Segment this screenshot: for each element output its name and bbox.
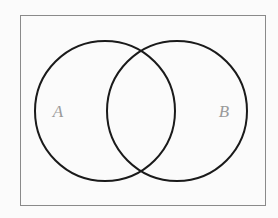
venn-diagram-figure: A B	[0, 0, 278, 218]
venn-diagram-canvas: A B	[0, 0, 278, 218]
figure-background	[0, 0, 278, 218]
set-label-a: A	[52, 102, 64, 121]
set-label-b: B	[219, 102, 230, 121]
